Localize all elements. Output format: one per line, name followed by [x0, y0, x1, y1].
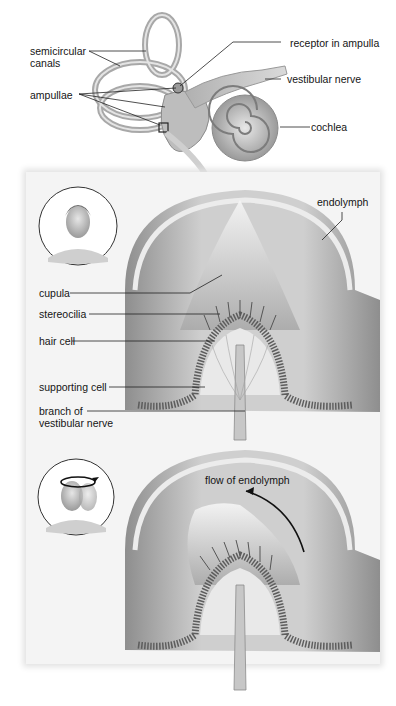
label-stereocilia: stereocilia — [39, 308, 86, 320]
ampulla-rest — [125, 190, 380, 440]
head-rotating — [38, 459, 114, 535]
head-at-rest — [39, 187, 117, 265]
ampulla-illustrations — [0, 0, 396, 706]
label-branch-of-vestibular-nerve: branch of vestibular nerve — [39, 405, 113, 429]
label-endolymph: endolymph — [317, 196, 368, 208]
label-supporting-cell: supporting cell — [39, 381, 107, 393]
nerve-branch-rotating — [234, 585, 246, 690]
label-hair-cell: hair cell — [39, 335, 75, 347]
diagram-root: semicircular canals ampullae receptor in… — [0, 0, 396, 706]
label-cupula: cupula — [39, 287, 70, 299]
label-flow-of-endolymph: flow of endolymph — [205, 474, 290, 486]
nerve-branch-rest — [234, 345, 246, 440]
ampulla-rotating — [125, 450, 380, 690]
